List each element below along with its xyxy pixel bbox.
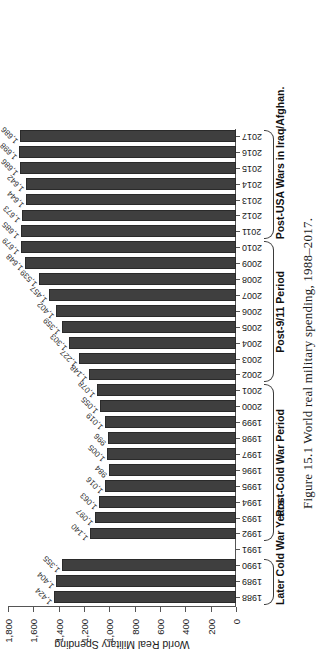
bar[interactable] — [100, 400, 236, 412]
x-tick-label: 2011 — [242, 227, 261, 237]
category-group: Post-USA Wars in Iraq/Afghan. — [264, 130, 286, 239]
y-tick-label: 200 — [205, 619, 216, 635]
y-tick-label-wrap: 1,000 — [109, 611, 110, 612]
x-axis-tick — [236, 438, 240, 439]
bar-slot: 1,0782001 — [8, 383, 236, 399]
bar[interactable] — [62, 559, 236, 571]
bar[interactable] — [95, 512, 236, 524]
x-tick-label: 2005 — [242, 323, 262, 333]
y-tick-label-wrap: 800 — [135, 611, 136, 612]
bar[interactable] — [21, 225, 236, 237]
bar[interactable] — [109, 464, 236, 476]
x-tick-label: 1992 — [242, 529, 262, 539]
bar-slot: 1,3551990 — [8, 558, 236, 574]
x-axis-tick — [236, 486, 240, 487]
x-axis-tick — [236, 247, 240, 248]
bar-slot: 1,0191999 — [8, 415, 236, 431]
bar-slot: 1,6442013 — [8, 193, 236, 209]
bar[interactable] — [62, 321, 236, 333]
x-tick-label: 2007 — [242, 291, 262, 301]
y-tick-label: 400 — [180, 619, 191, 635]
group-bracket — [264, 559, 274, 605]
x-axis-tick — [236, 152, 240, 153]
y-tick-label: 1,400 — [53, 619, 64, 643]
x-tick-label: 2002 — [242, 370, 262, 380]
x-tick-label: 2014 — [242, 180, 262, 190]
y-tick-label: 0 — [231, 619, 242, 624]
x-tick-label: 1988 — [242, 593, 262, 603]
y-tick-label-wrap: 1,600 — [33, 611, 34, 612]
y-tick-label-wrap: 200 — [211, 611, 212, 612]
bar[interactable] — [54, 591, 236, 603]
bar[interactable] — [19, 146, 236, 158]
y-tick-label: 600 — [155, 619, 166, 635]
plot-area: 02004006008001,0001,2001,4001,6001,800 1… — [8, 129, 236, 607]
x-axis-tick — [236, 311, 240, 312]
x-axis-tick — [236, 422, 240, 423]
group-label: Post-9/11 Period — [274, 241, 286, 382]
bar[interactable] — [79, 353, 236, 365]
group-label: Post-Cold War Period — [274, 384, 286, 541]
bar[interactable] — [105, 480, 236, 492]
bar-slot: 1,6732012 — [8, 209, 236, 225]
bar-slot: 1,6792010 — [8, 240, 236, 256]
x-axis-tick — [236, 279, 240, 280]
bar-slot: 1,4022006 — [8, 304, 236, 320]
x-tick-label: 1996 — [242, 466, 262, 476]
bar[interactable] — [107, 448, 236, 460]
x-axis-tick — [236, 390, 240, 391]
x-axis-tick — [236, 359, 240, 360]
bar[interactable] — [56, 305, 236, 317]
bar[interactable] — [90, 528, 236, 540]
bar-slot: 1,1401992 — [8, 527, 236, 543]
bar[interactable] — [39, 273, 236, 285]
bar-slot: 1,0051997 — [8, 447, 236, 463]
x-axis-tick — [236, 295, 240, 296]
y-tick-label-wrap: 1,400 — [59, 611, 60, 612]
bar-series: 1,42419881,40419891,355199019911,1401992… — [8, 129, 236, 606]
x-axis-tick — [236, 263, 240, 264]
bar-slot: 9961998 — [8, 431, 236, 447]
bar[interactable] — [99, 496, 236, 508]
y-tick-label: 1,200 — [79, 619, 90, 643]
x-tick-label: 1989 — [242, 577, 262, 587]
x-axis-tick — [236, 470, 240, 471]
x-tick-label: 2016 — [242, 148, 262, 158]
bar[interactable] — [49, 289, 236, 301]
figure-caption: Figure 15.1 World real military spending… — [300, 89, 316, 509]
x-axis-tick — [236, 533, 240, 534]
bar[interactable] — [20, 130, 236, 142]
x-axis-tick — [236, 374, 240, 375]
bar-slot: 1,4041989 — [8, 574, 236, 590]
group-bracket — [264, 384, 274, 541]
bar[interactable] — [26, 194, 236, 206]
bar[interactable] — [25, 257, 236, 269]
y-tick-label: 800 — [129, 619, 140, 635]
x-tick-label: 2013 — [242, 196, 262, 206]
x-axis-tick — [236, 200, 240, 201]
bar-slot: 1,0631994 — [8, 495, 236, 511]
bar[interactable] — [89, 369, 236, 381]
bar[interactable] — [56, 575, 236, 587]
bar[interactable] — [21, 241, 236, 253]
y-tick-label-wrap: 1,800 — [8, 611, 9, 612]
bar[interactable] — [69, 337, 236, 349]
x-tick-label: 2015 — [242, 164, 262, 174]
group-label: Post-USA Wars in Iraq/Afghan. — [274, 130, 286, 239]
x-axis-tick — [236, 168, 240, 169]
bar[interactable] — [22, 210, 236, 222]
category-group: Post-9/11 Period — [264, 241, 286, 382]
x-axis-tick — [236, 327, 240, 328]
y-tick-label-wrap: 600 — [160, 611, 161, 612]
category-group: Later Cold War Years — [264, 559, 286, 605]
bar[interactable] — [108, 432, 236, 444]
bar[interactable] — [97, 384, 236, 396]
x-tick-label: 1991 — [242, 545, 262, 555]
x-tick-label: 1995 — [242, 482, 262, 492]
bar[interactable] — [105, 416, 236, 428]
x-axis-tick — [236, 406, 240, 407]
bar[interactable] — [20, 162, 236, 174]
bar[interactable] — [26, 178, 236, 190]
bar-slot: 1,6422014 — [8, 177, 236, 193]
bar-slot: 1991 — [8, 542, 236, 558]
